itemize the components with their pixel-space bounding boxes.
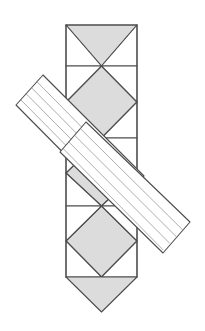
- net-face-col-diamond-5: [66, 277, 137, 312]
- figure-canvas: Geometric net diagram Unfolded polyhedro…: [0, 0, 205, 331]
- net-diagram: [0, 0, 205, 331]
